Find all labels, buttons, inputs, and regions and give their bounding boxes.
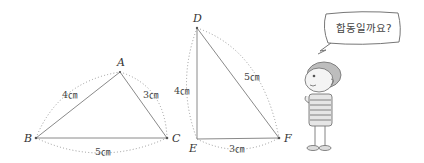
boy-shoe-right xyxy=(319,146,331,151)
vertex-f-dot xyxy=(278,137,281,140)
vertex-b-dot xyxy=(35,137,38,140)
triangle-def: D E F 4㎝ 5㎝ 3㎝ xyxy=(174,12,292,155)
vertex-label-c: C xyxy=(172,132,181,145)
vertex-label-e: E xyxy=(188,142,197,155)
speech-bubble: 합동일까요? xyxy=(318,12,400,54)
side-length-df: 5㎝ xyxy=(244,71,260,82)
triangle-abc: A B C 4㎝ 3㎝ 5㎝ xyxy=(23,56,181,157)
speech-bubble-text: 합동일까요? xyxy=(336,22,392,34)
vertex-label-d: D xyxy=(192,12,202,25)
vertex-d-dot xyxy=(196,27,198,29)
triangle-def-outline xyxy=(197,28,279,139)
boy-shoe-left xyxy=(307,146,319,151)
side-length-ac: 3㎝ xyxy=(143,89,159,100)
side-length-ef: 3㎝ xyxy=(229,143,245,154)
speech-bubble-tail xyxy=(318,43,331,54)
boy-face xyxy=(305,68,333,92)
vertex-c-dot xyxy=(166,137,169,140)
vertex-label-f: F xyxy=(283,132,292,145)
arc-de xyxy=(187,28,198,139)
side-length-bc: 5㎝ xyxy=(95,146,111,157)
boy-eye xyxy=(313,75,316,78)
boy-illustration xyxy=(305,62,341,151)
congruence-diagram: A B C 4㎝ 3㎝ 5㎝ D E F 4㎝ 5㎝ 3㎝ 합동일까요? xyxy=(0,0,424,163)
vertex-label-b: B xyxy=(23,132,32,145)
vertex-a-dot xyxy=(119,71,121,73)
side-length-ab: 4㎝ xyxy=(62,89,78,100)
side-length-de: 4㎝ xyxy=(174,85,190,96)
vertex-label-a: A xyxy=(116,56,125,69)
